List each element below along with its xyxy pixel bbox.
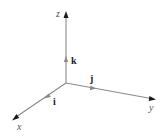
j-vector-label: j xyxy=(89,73,93,84)
i-unit-vector: i xyxy=(44,94,56,108)
k-arrowhead-icon xyxy=(64,56,68,62)
y-axis-arrowhead-icon xyxy=(149,96,156,101)
i-vector-label: i xyxy=(53,96,56,107)
x-axis-label: x xyxy=(16,121,22,132)
y-axis: y xyxy=(66,83,156,113)
coordinate-diagram: z k y j x i xyxy=(0,0,168,137)
y-axis-label: y xyxy=(148,102,154,113)
k-vector-label: k xyxy=(71,55,77,66)
z-axis-arrowhead-icon xyxy=(64,11,69,18)
z-axis: z xyxy=(55,8,69,83)
z-axis-label: z xyxy=(55,8,60,19)
x-axis: x xyxy=(12,83,66,132)
